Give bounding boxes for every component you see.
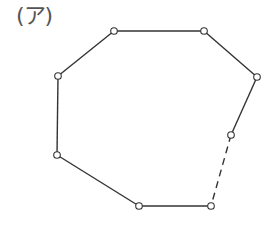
vertex-v8 <box>55 73 62 80</box>
dashed-edge-v4-v5 <box>211 135 231 206</box>
edge-v2-v3 <box>204 31 257 77</box>
vertex-v2 <box>201 28 208 35</box>
edge-v6-v7 <box>57 155 139 206</box>
vertex-v3 <box>254 74 261 81</box>
edge-v8-v1 <box>58 31 114 76</box>
polygon-edges <box>57 31 257 206</box>
vertex-v5 <box>208 203 215 210</box>
vertex-v7 <box>54 152 61 159</box>
vertex-v4 <box>228 132 235 139</box>
vertex-v6 <box>136 203 143 210</box>
polygon-diagram <box>0 0 267 245</box>
edge-v7-v8 <box>57 76 58 155</box>
edge-v3-v4 <box>231 77 257 135</box>
vertex-v1 <box>111 28 118 35</box>
